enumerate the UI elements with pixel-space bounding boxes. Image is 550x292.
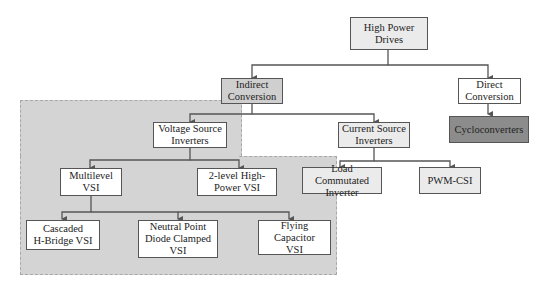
- node-current-source-inverters: Current Source Inverters: [338, 122, 410, 148]
- node-multilevel-vsi: Multilevel VSI: [60, 168, 122, 196]
- node-cycloconverters: Cycloconverters: [449, 116, 529, 143]
- node-direct-conversion: Direct Conversion: [458, 78, 521, 104]
- node-pwm-csi: PWM-CSI: [419, 167, 481, 194]
- node-indirect-conversion: Indirect Conversion: [221, 78, 283, 104]
- node-cascaded-h-bridge-vsi: Cascaded H-Bridge VSI: [26, 220, 100, 250]
- node-neutral-point-diode-clamped-vsi: Neutral Point Diode Clamped VSI: [138, 220, 218, 258]
- node-high-power-drives: High Power Drives: [350, 17, 428, 50]
- node-load-commutated-inverter: Load Commutated Inverter: [302, 167, 382, 194]
- node-flying-capacitor-vsi: Flying Capacitor VSI: [258, 220, 331, 255]
- node-voltage-source-inverters: Voltage Source Inverters: [153, 122, 227, 148]
- node-2-level-high-power-vsi: 2-level High- Power VSI: [197, 168, 277, 196]
